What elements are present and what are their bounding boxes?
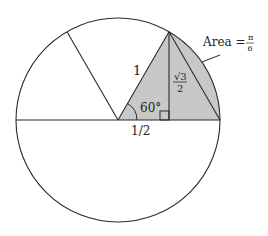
label-hypotenuse: 1: [133, 63, 141, 78]
radius-120: [67, 32, 118, 120]
label-angle: 60°: [140, 101, 161, 115]
label-height-numerator: √3: [174, 71, 187, 82]
area-pointer: [202, 55, 220, 62]
label-area-prefix: Area =: [202, 35, 246, 49]
unit-circle-diagram: 1 60° 1/2 √3 2 Area = π 6: [0, 0, 268, 236]
label-area-numerator: π: [248, 33, 253, 42]
label-base: 1/2: [131, 124, 150, 138]
label-height-denominator: 2: [177, 83, 183, 94]
label-area-denominator: 6: [248, 44, 253, 53]
